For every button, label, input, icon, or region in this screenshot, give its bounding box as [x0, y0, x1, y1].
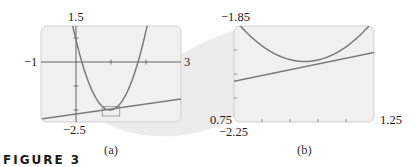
y-min-label: −2.5 [63, 123, 86, 137]
figure-canvas: 1.5 −1 3 −2.5 (a) −1.85 0.75 −2.25 1.25 … [0, 0, 417, 167]
panel-a-frame [41, 26, 181, 122]
y-min-label: −2.25 [219, 125, 248, 139]
caption-a: (a) [104, 143, 118, 157]
x-min-label: −1 [24, 55, 37, 69]
y-max-label: −1.85 [221, 10, 250, 24]
x-max-label: 3 [184, 55, 190, 69]
caption-b: (b) [297, 143, 312, 157]
panel-b: −1.85 0.75 −2.25 1.25 (b) [210, 10, 402, 157]
x-max-label: 1.25 [380, 113, 402, 127]
y-max-label: 1.5 [68, 10, 84, 24]
figure-label: FIGURE 3 [3, 153, 81, 167]
